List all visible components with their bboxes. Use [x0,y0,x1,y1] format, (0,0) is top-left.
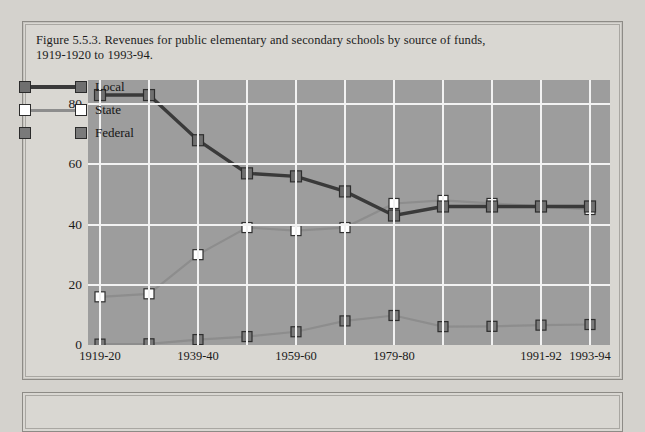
legend-marker-state-start [19,104,31,116]
legend-label-local: Local [95,79,125,95]
gridline-vertical [246,80,248,345]
y-axis-tick-label: 20 [40,277,82,293]
y-axis-tick-label: 0 [40,337,82,353]
y-axis-tick-label: 40 [40,217,82,233]
legend-marker-federal-end [75,127,87,139]
x-axis-tick-label: 1993-94 [569,349,611,364]
x-axis-tick-label: 1919-20 [79,349,121,364]
gridline-vertical [540,80,542,345]
legend-marker-state-end [75,104,87,116]
y-axis-tick-label: 60 [40,156,82,172]
legend-label-federal: Federal [95,125,134,141]
chart-legend: Local State Federal [15,77,135,146]
legend-item-state: State [15,100,135,123]
chart-plot-area [88,80,610,345]
x-axis-tick-label: 1939-40 [177,349,219,364]
caption-line-1: Figure 5.5.3. Revenues for public elemen… [36,33,485,47]
gridline-vertical [589,80,591,345]
caption-line-2: 1919-1920 to 1993-94. [36,48,596,63]
x-axis-tick-label: 1959-60 [275,349,317,364]
legend-marker-federal-start [19,127,31,139]
next-figure-panel [22,392,623,432]
gridline-horizontal [88,103,610,105]
chart-series-svg [88,80,610,345]
gridline-vertical [491,80,493,345]
x-axis-tick-labels: 1919-201939-401959-601979-801991-921993-… [88,349,610,369]
x-axis-tick-label: 1979-80 [373,349,415,364]
gridline-vertical [295,80,297,345]
next-figure-panel-inner-border [25,395,620,429]
legend-item-local: Local [15,77,135,100]
gridline-vertical [393,80,395,345]
legend-marker-local-start [19,81,31,93]
gridline-horizontal [88,163,610,165]
gridline-vertical [344,80,346,345]
legend-line-state [25,109,79,112]
figure-caption: Figure 5.5.3. Revenues for public elemen… [36,33,596,63]
x-axis-tick-label: 1991-92 [520,349,562,364]
gridline-vertical [148,80,150,345]
gridline-horizontal [88,284,610,286]
legend-line-local [25,85,79,89]
legend-label-state: State [95,102,121,118]
gridline-horizontal [88,224,610,226]
gridline-vertical [197,80,199,345]
legend-item-federal: Federal [15,123,135,146]
gridline-horizontal [88,344,610,346]
gridline-vertical [442,80,444,345]
legend-marker-local-end [75,81,87,93]
